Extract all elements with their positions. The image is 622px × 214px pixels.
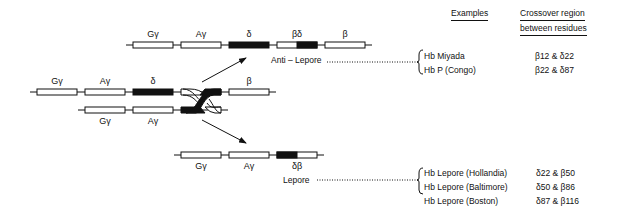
example-region: β22 & δ87 <box>535 66 574 75</box>
label-G-gamma-bottom: Gγ <box>181 162 221 171</box>
label-G-gamma-mid-upper: Gγ <box>37 77 77 86</box>
middle-upper-chromosome <box>30 89 276 95</box>
label-A-gamma-top: Aγ <box>181 30 221 39</box>
label-A-gamma-mid-lower: Aγ <box>133 117 173 126</box>
arrow-down-icon <box>202 120 246 143</box>
gene-A-gamma <box>181 42 221 48</box>
crossover-header-line1: Crossover region <box>520 9 585 21</box>
label-beta-mid-upper: β <box>229 77 269 86</box>
label-G-gamma-mid-lower: Gγ <box>85 117 125 126</box>
example-region: δ87 & β116 <box>536 197 579 206</box>
example-name: Hb Lepore (Boston) <box>424 197 498 206</box>
anti-lepore-label: Anti – Lepore <box>271 56 322 65</box>
top-chromosome <box>126 42 372 48</box>
brace-lepore <box>417 168 423 194</box>
gene-beta <box>325 42 365 48</box>
examples-header: Examples <box>451 9 488 21</box>
label-delta-mid-upper: δ <box>133 77 173 86</box>
lepore-label: Lepore <box>283 176 309 185</box>
brace-anti-lepore <box>417 50 423 74</box>
gene-G-gamma <box>133 42 173 48</box>
label-beta-delta-top: βδ <box>277 30 317 39</box>
example-region: δ50 & β86 <box>536 183 575 192</box>
example-name: Hb P (Congo) <box>424 66 476 75</box>
example-region: β12 & δ22 <box>535 52 574 61</box>
label-delta-top: δ <box>229 30 269 39</box>
example-name: Hb Lepore (Baltimore) <box>424 183 508 192</box>
example-name: Hb Lepore (Hollandia) <box>424 169 507 178</box>
label-A-gamma-mid-upper: Aγ <box>85 77 125 86</box>
example-region: δ22 & β50 <box>536 169 575 178</box>
label-G-gamma-top: Gγ <box>133 30 173 39</box>
label-A-gamma-bottom: Aγ <box>229 162 269 171</box>
label-beta-top: β <box>325 30 365 39</box>
label-delta-beta-bottom: δβ <box>277 162 317 171</box>
gene-delta <box>229 42 269 48</box>
middle-lower-chromosome <box>78 107 228 113</box>
example-name: Hb Miyada <box>424 52 465 61</box>
bottom-chromosome <box>174 152 324 158</box>
crossover-header-line2: between residues <box>520 24 587 36</box>
